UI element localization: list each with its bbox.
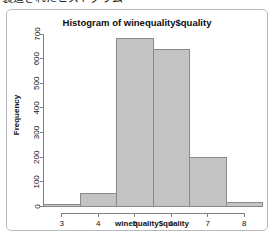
- y-tick-label: 0: [33, 204, 42, 209]
- bars-group: [44, 39, 263, 207]
- y-tick-label: 300: [33, 125, 42, 139]
- y-tick-label: 400: [33, 101, 42, 115]
- histogram-bar: [190, 157, 227, 206]
- y-tick-label: 500: [33, 76, 42, 90]
- y-tick-label: 100: [33, 175, 42, 189]
- histogram-bar: [153, 49, 190, 206]
- x-tick-label: 8: [242, 219, 247, 228]
- x-tick-label: 7: [206, 219, 211, 228]
- y-tick-label: 200: [33, 150, 42, 164]
- x-axis-title: winequality$quality: [114, 219, 189, 228]
- plot-title: Histogram of winequality$quality: [63, 17, 213, 28]
- x-tick-label: 4: [96, 219, 101, 228]
- histogram-bar: [117, 39, 154, 207]
- y-tick-label: 600: [33, 51, 42, 65]
- histogram-plot: Histogram of winequality$quality 0100200…: [7, 10, 267, 230]
- histogram-bar: [80, 193, 117, 206]
- y-tick-label: 700: [33, 27, 42, 41]
- histogram-bar: [44, 204, 81, 206]
- y-axis-title: Frequency: [12, 94, 21, 135]
- x-tick-label: 3: [60, 219, 65, 228]
- y-axis: 0100200300400500600700: [33, 27, 44, 209]
- histogram-bar: [226, 202, 263, 206]
- cropped-caption-strip: 製造されたヒストグラム: [0, 0, 274, 5]
- cropped-caption-text: 製造されたヒストグラム: [0, 0, 274, 5]
- plot-frame: Histogram of winequality$quality 0100200…: [6, 9, 268, 231]
